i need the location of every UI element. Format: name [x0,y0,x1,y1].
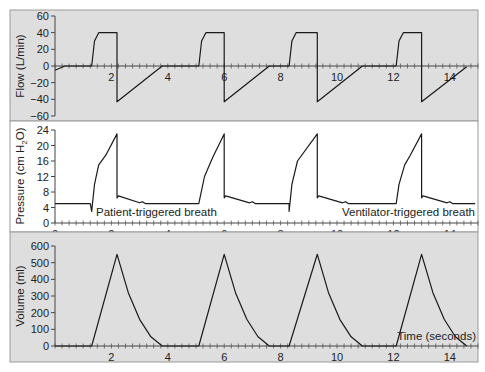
x-tick-label: 4 [165,71,171,83]
x-tick-label: 8 [278,71,284,83]
ventilator-waveform-figure: 6040200−20−40−602468101214Flow (L/min)24… [0,0,485,372]
y-tick-label: 0 [43,340,49,352]
y-tick-label: 12 [37,171,49,183]
x-tick-label: 10 [331,351,343,363]
y-tick-label: 100 [31,323,49,335]
y-tick-label: 40 [37,27,49,39]
y-tick-label: 20 [37,140,49,152]
y-axis-label: Flow (L/min) [14,34,26,97]
panel-flow: 6040200−20−40−602468101214Flow (L/min) [10,10,478,122]
x-tick-label: 4 [165,351,171,363]
x-tick-label: 12 [387,351,399,363]
annotation-patient-triggered: Patient-triggered breath [96,206,217,218]
y-tick-label: 0 [43,217,49,229]
x-axis-label: Time (seconds) [397,330,476,342]
y-tick-label: 20 [37,43,49,55]
x-tick-label: 12 [387,71,399,83]
y-tick-label: 24 [37,124,49,136]
y-tick-label: 500 [31,257,49,269]
panel-pressure: 2420161284002468101214Pressure (cm H2O)P… [10,121,478,240]
y-tick-label: 400 [31,273,49,285]
y-tick-label: 60 [37,10,49,22]
x-tick-label: 6 [221,351,227,363]
y-tick-label: 16 [37,155,49,167]
y-tick-label: 8 [43,186,49,198]
annotation-ventilator-triggered: Ventilator-triggered breath [342,206,475,218]
y-tick-label: −20 [30,77,49,89]
y-tick-label: −40 [30,93,49,105]
y-tick-label: 300 [31,290,49,302]
x-tick-label: 2 [108,71,114,83]
y-tick-label: −60 [30,110,49,122]
x-tick-label: 14 [444,351,456,363]
y-tick-label: 600 [31,240,49,252]
panel-volume: 60050040030020010002468101214Volume (ml)… [10,232,478,363]
y-tick-label: 4 [43,202,49,214]
x-tick-label: 8 [278,351,284,363]
y-tick-label: 0 [43,60,49,72]
y-axis-label: Volume (ml) [14,265,26,327]
x-tick-label: 10 [331,71,343,83]
y-tick-label: 200 [31,307,49,319]
x-tick-label: 2 [108,351,114,363]
